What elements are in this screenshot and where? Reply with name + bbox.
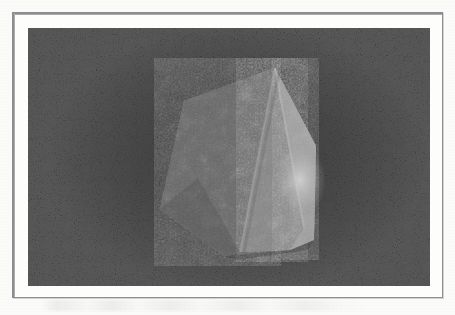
bleed-through-text bbox=[42, 300, 372, 311]
scanned-page: Rendered grayscale image plate bbox=[0, 0, 455, 315]
frame-rule-left bbox=[13, 13, 15, 297]
rendered-image-plate: Rendered grayscale image plate bbox=[28, 28, 430, 286]
polyhedron-render bbox=[28, 28, 430, 286]
render-halftone-overlay bbox=[28, 28, 430, 286]
frame-rule-top bbox=[13, 13, 442, 15]
